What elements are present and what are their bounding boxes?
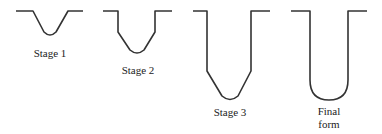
stage-1-label: Stage 1 <box>30 47 70 60</box>
stage-3-label: Stage 3 <box>209 106 251 119</box>
final-form-label-line1: Final <box>313 105 345 118</box>
stage-2-shape <box>103 11 172 53</box>
diagram-canvas: Stage 1 Stage 2 Stage 3 Final form <box>0 0 382 134</box>
final-form-label-line2: form <box>313 118 345 131</box>
final-form-label: Final form <box>313 105 345 131</box>
stage-2-label: Stage 2 <box>117 64 159 77</box>
final-form-shape <box>291 11 367 100</box>
stage-1-shape <box>16 11 83 35</box>
stage-3-shape <box>193 11 270 100</box>
